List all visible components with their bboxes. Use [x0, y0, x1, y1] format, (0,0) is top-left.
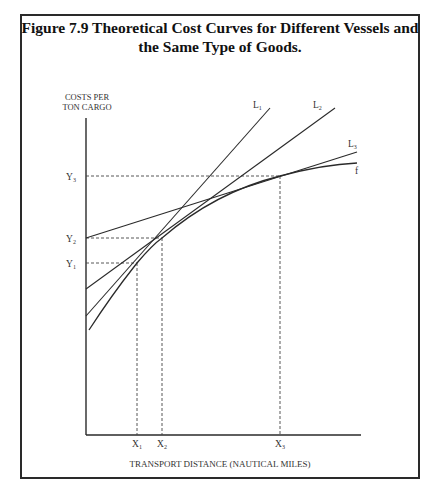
- label-L2: L2: [313, 100, 322, 111]
- x-axis-label: TRANSPORT DISTANCE (NAUTICAL MILES): [130, 459, 311, 469]
- x1-label: X1: [132, 439, 142, 450]
- y-axis-label-line1: COSTS PER: [65, 92, 109, 102]
- cost-curve-diagram: COSTS PER TON CARGO TRANSPORT DISTANCE (…: [0, 0, 437, 502]
- y-axis-label-line2: TON CARGO: [62, 102, 111, 112]
- label-L3: L3: [348, 139, 357, 150]
- curve-f: [89, 163, 357, 330]
- x3-label: X3: [275, 439, 285, 450]
- y3-label: Y3: [66, 172, 76, 183]
- line-L1: [86, 108, 270, 316]
- label-f: f: [355, 166, 359, 176]
- y2-label: Y2: [66, 234, 76, 245]
- y1-label: Y1: [66, 259, 76, 270]
- dashed-guides: [86, 176, 280, 435]
- line-L3: [86, 152, 357, 238]
- label-L1: L1: [253, 100, 262, 111]
- x2-label: X2: [157, 439, 167, 450]
